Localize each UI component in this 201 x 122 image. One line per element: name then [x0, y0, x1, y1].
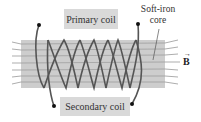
vector-arrow-icon: → — [184, 50, 191, 58]
primary-terminal-left — [37, 23, 41, 27]
core-label-line1: Soft-iron — [136, 4, 180, 15]
primary-coil-label: Primary coil — [64, 9, 118, 29]
secondary-terminal-left — [52, 104, 56, 108]
soft-iron-core-label: Soft-iron core — [136, 4, 180, 26]
soft-iron-core — [21, 40, 165, 88]
secondary-coil-label: Secondary coil — [60, 97, 130, 116]
secondary-terminal-right — [130, 102, 134, 106]
magnetic-field-vector-label: → B — [183, 56, 190, 67]
core-label-line2: core — [136, 15, 180, 26]
